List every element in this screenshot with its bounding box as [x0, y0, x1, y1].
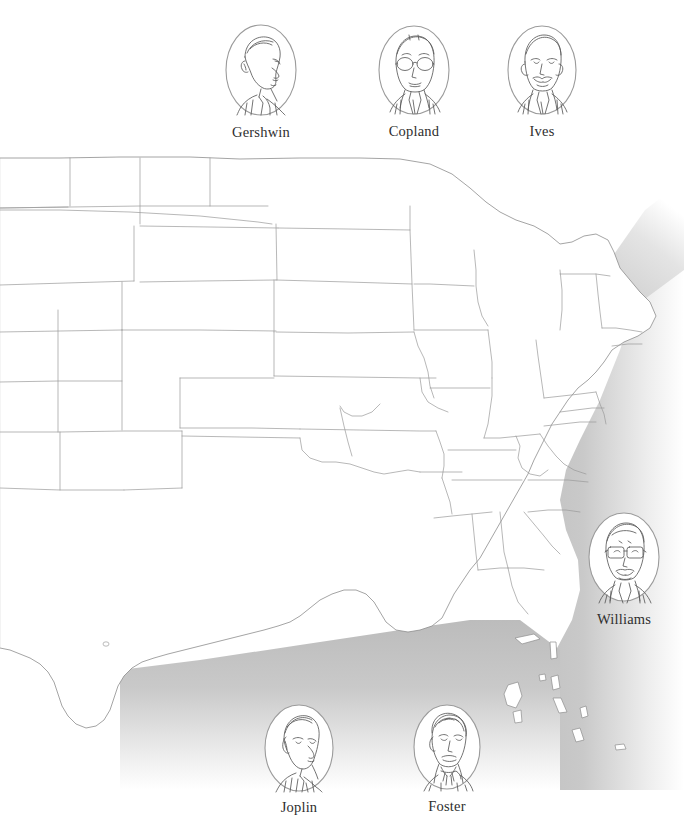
gershwin-portrait-icon: [223, 23, 299, 121]
island-10: [615, 744, 626, 750]
portrait-medallion-copland[interactable]: Copland: [375, 24, 453, 120]
joplin-portrait-icon: [262, 703, 336, 796]
composer-map-figure: Gershwin: [0, 0, 684, 837]
united-states-map: [0, 150, 684, 790]
copland-portrait-icon: [375, 24, 453, 120]
portrait-label: Copland: [389, 124, 440, 139]
portrait-medallion-ives[interactable]: Ives: [505, 24, 579, 120]
map-svg: [0, 150, 684, 790]
island-9: [539, 674, 546, 681]
portrait-label: Joplin: [281, 800, 318, 815]
ives-portrait-icon: [505, 24, 579, 120]
portrait-label: Ives: [530, 124, 555, 139]
williams-portrait-icon: [586, 511, 662, 608]
coastal-islets: [103, 642, 109, 646]
portrait-medallion-gershwin[interactable]: Gershwin: [223, 23, 299, 121]
portrait-medallion-foster[interactable]: Foster: [411, 703, 483, 795]
portrait-label: Williams: [597, 612, 651, 627]
portrait-label: Gershwin: [232, 125, 290, 140]
island-2: [550, 642, 557, 659]
portrait-medallion-williams[interactable]: Williams: [586, 511, 662, 608]
island-3: [551, 675, 560, 690]
island-6: [513, 710, 522, 723]
portrait-label: Foster: [428, 799, 465, 814]
foster-portrait-icon: [411, 703, 483, 795]
islet-gulf: [103, 642, 109, 646]
portrait-medallion-joplin[interactable]: Joplin: [262, 703, 336, 796]
cropped-caption: [40, 0, 650, 3]
